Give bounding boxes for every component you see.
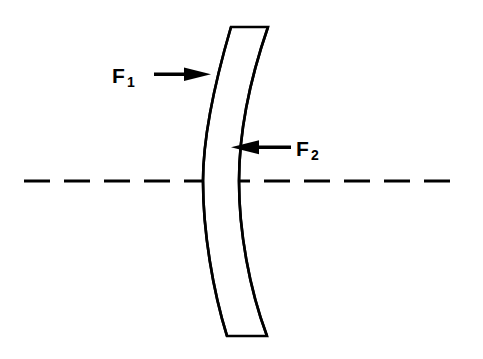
f1-arrow-group bbox=[154, 68, 211, 82]
f1-label: F bbox=[112, 64, 125, 87]
meniscus-lens-body bbox=[203, 27, 268, 336]
f2-label: F bbox=[296, 137, 309, 160]
f1-label-group: F 1 bbox=[112, 64, 135, 90]
f2-label-subscript: 2 bbox=[311, 147, 319, 163]
f2-label-group: F 2 bbox=[296, 137, 319, 163]
arrow-to-first-surface-icon bbox=[154, 68, 211, 82]
f1-label-subscript: 1 bbox=[127, 74, 135, 90]
lens-diagram-figure: F 1 F 2 bbox=[0, 0, 483, 359]
lens-diagram-canvas: F 1 F 2 bbox=[0, 0, 483, 359]
